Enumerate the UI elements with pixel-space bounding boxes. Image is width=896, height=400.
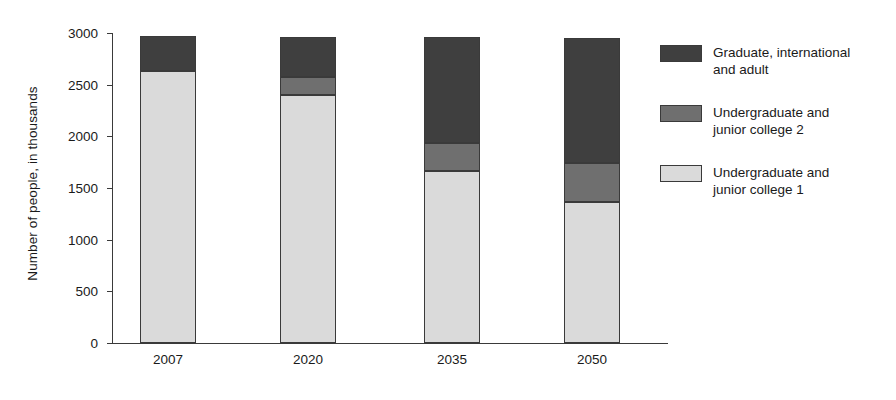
bar-segment	[424, 171, 480, 343]
bar-segment	[140, 36, 196, 71]
stacked-bar-chart: Number of people, in thousands 050010001…	[0, 0, 896, 400]
bar-segment	[564, 38, 620, 163]
legend-item: Graduate, international and adult	[660, 44, 896, 78]
bar-2050	[564, 38, 620, 343]
legend-item: Undergraduate and junior college 1	[660, 164, 896, 198]
legend-swatch-icon	[660, 45, 702, 62]
y-tick-label: 0	[90, 336, 98, 351]
bar-segment	[424, 37, 480, 143]
y-tick: 500	[107, 291, 112, 292]
y-tick: 1000	[107, 240, 112, 241]
y-tick-label: 3000	[68, 26, 98, 41]
y-tick: 1500	[107, 188, 112, 189]
y-tick: 2000	[107, 136, 112, 137]
y-tick-label: 1500	[68, 181, 98, 196]
legend-item: Undergraduate and junior college 2	[660, 104, 896, 138]
bar-segment	[280, 37, 336, 78]
bar-segment	[280, 77, 336, 95]
y-tick-label: 2500	[68, 77, 98, 92]
legend-label: Graduate, international and adult	[713, 44, 850, 78]
bar-segment	[424, 143, 480, 171]
y-tick: 3000	[107, 33, 112, 34]
y-tick-label: 2000	[68, 129, 98, 144]
x-axis-label-2007: 2007	[140, 352, 196, 367]
bar-2007	[140, 36, 196, 343]
x-axis-line	[112, 343, 668, 344]
x-axis-label-2035: 2035	[424, 352, 480, 367]
bar-segment	[564, 202, 620, 343]
y-tick: 2500	[107, 85, 112, 86]
legend-swatch-icon	[660, 105, 702, 122]
legend-label: Undergraduate and junior college 2	[713, 104, 829, 138]
legend-label: Undergraduate and junior college 1	[713, 164, 829, 198]
y-axis-title: Number of people, in thousands	[25, 34, 40, 334]
bar-segment	[140, 71, 196, 343]
x-axis-label-2050: 2050	[564, 352, 620, 367]
bar-segment	[280, 95, 336, 343]
chart-legend: Graduate, international and adultUndergr…	[660, 44, 896, 224]
y-tick-label: 1000	[68, 232, 98, 247]
x-axis-label-2020: 2020	[280, 352, 336, 367]
y-axis-line	[112, 33, 113, 343]
y-tick-label: 500	[75, 284, 98, 299]
bar-2035	[424, 37, 480, 343]
bar-2020	[280, 37, 336, 343]
legend-swatch-icon	[660, 165, 702, 182]
y-tick: 0	[107, 343, 112, 344]
bar-segment	[564, 163, 620, 202]
plot-area: 050010001500200025003000 200720202035205…	[112, 28, 668, 348]
